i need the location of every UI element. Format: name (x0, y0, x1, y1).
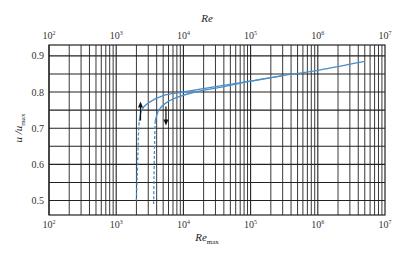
chart: 102103104105106107 102103104105106107 0.… (0, 0, 405, 256)
horizontal-grid (49, 56, 385, 201)
x-tick-label: 103 (110, 30, 123, 41)
x-tick-label: 106 (311, 30, 324, 41)
y-tick-label: 0.5 (32, 195, 45, 206)
y-tick-label: 0.7 (32, 123, 45, 134)
curve-solid-1 (155, 76, 283, 121)
y-tick-label: 0.6 (32, 159, 45, 170)
x-tick-label: 105 (244, 219, 257, 230)
curve-dashed-1 (154, 121, 156, 204)
x-tick-label: 106 (311, 219, 324, 230)
x-tick-label: 107 (379, 219, 392, 230)
y-tick-labels: 0.50.60.70.80.9 (32, 50, 45, 206)
y-tick-label: 0.8 (32, 87, 45, 98)
top-x-tick-labels: 102103104105106107 (43, 30, 392, 41)
bottom-x-tick-labels: 102103104105106107 (43, 219, 392, 230)
plot-frame (49, 45, 385, 215)
arrow-up-head (138, 101, 143, 107)
x-tick-label: 102 (43, 30, 56, 41)
x-tick-label: 102 (43, 219, 56, 230)
top-x-axis-label: Re (200, 12, 213, 24)
x-tick-label: 103 (110, 219, 123, 230)
y-axis-label: u /umax (12, 113, 27, 142)
x-tick-label: 105 (244, 30, 257, 41)
arrow-down-head (163, 119, 168, 125)
y-tick-label: 0.9 (32, 50, 45, 61)
vertical-grid (49, 45, 382, 215)
x-tick-label: 104 (177, 30, 190, 41)
x-tick-label: 104 (177, 219, 190, 230)
bottom-x-axis-label: Remax (194, 231, 219, 246)
x-tick-label: 107 (379, 30, 392, 41)
